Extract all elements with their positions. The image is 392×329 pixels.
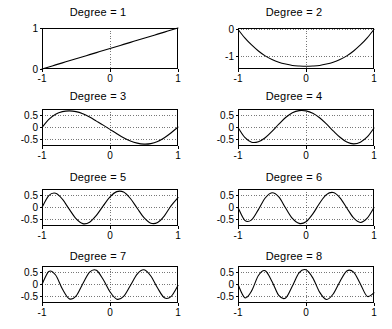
axes: -1010.50-0.5 (0, 88, 194, 168)
y-tick-label: 0 (32, 122, 38, 133)
plot-area: -1010.50-0.5 (196, 250, 390, 325)
y-tick-label: 0.5 (220, 110, 234, 121)
x-tick-label: -1 (234, 230, 243, 241)
figure-grid: Degree = 1 -10101 Degree = 2 -1010-1 Deg… (0, 0, 392, 329)
x-tick-label: 1 (175, 307, 181, 318)
x-tick-label: 1 (175, 150, 181, 161)
x-tick-label: -1 (38, 73, 47, 84)
plot-area: -1010.50-0.5 (0, 170, 194, 248)
axes: -1010.50-0.5 (196, 88, 390, 168)
x-tick-label: 0 (107, 230, 113, 241)
y-tick-label: 0 (228, 202, 234, 213)
x-tick-label: 1 (371, 150, 377, 161)
panel-degree-8: Degree = 8 -1010.50-0.5 (196, 250, 392, 329)
x-tick-label: 0 (303, 230, 309, 241)
y-tick-label: -1 (225, 51, 234, 62)
y-tick-label: -0.5 (217, 291, 235, 302)
plot-area: -1010.50-0.5 (196, 88, 390, 168)
x-tick-label: -1 (234, 307, 243, 318)
y-tick-label: 0 (228, 24, 234, 35)
plot-area: -1010.50-0.5 (0, 250, 194, 325)
axes: -1010-1 (196, 0, 390, 91)
x-tick-label: 1 (175, 230, 181, 241)
x-tick-label: -1 (38, 307, 47, 318)
x-tick-label: 1 (371, 73, 377, 84)
x-tick-label: 0 (303, 150, 309, 161)
plot-area: -1010-1 (196, 0, 390, 91)
axes: -1010.50-0.5 (0, 250, 194, 325)
x-tick-label: -1 (234, 73, 243, 84)
x-tick-label: 1 (371, 230, 377, 241)
x-tick-label: -1 (38, 150, 47, 161)
y-tick-label: 0.5 (24, 190, 38, 201)
x-tick-label: 1 (175, 73, 181, 84)
panel-degree-1: Degree = 1 -10101 (0, 0, 196, 88)
axes: -1010.50-0.5 (196, 170, 390, 248)
axes: -1010.50-0.5 (0, 170, 194, 248)
y-tick-label: 0 (32, 202, 38, 213)
x-tick-label: 1 (371, 307, 377, 318)
y-tick-label: 0.5 (24, 267, 38, 278)
y-tick-label: 0 (32, 279, 38, 290)
y-tick-label: 0.5 (220, 267, 234, 278)
y-tick-label: 0 (228, 122, 234, 133)
x-tick-label: -1 (38, 230, 47, 241)
y-tick-label: -0.5 (21, 214, 39, 225)
panel-degree-4: Degree = 4 -1010.50-0.5 (196, 88, 392, 170)
plot-area: -1010.50-0.5 (0, 88, 194, 168)
y-tick-label: 1 (32, 23, 38, 34)
x-tick-label: 0 (107, 150, 113, 161)
x-tick-label: 0 (303, 73, 309, 84)
y-tick-label: 0.5 (220, 190, 234, 201)
panel-degree-3: Degree = 3 -1010.50-0.5 (0, 88, 196, 170)
y-tick-label: 0 (228, 279, 234, 290)
x-tick-label: 0 (107, 307, 113, 318)
panel-degree-5: Degree = 5 -1010.50-0.5 (0, 170, 196, 250)
x-tick-label: 0 (303, 307, 309, 318)
x-tick-label: 0 (107, 73, 113, 84)
plot-area: -1010.50-0.5 (196, 170, 390, 248)
y-tick-label: -0.5 (217, 134, 235, 145)
y-tick-label: -0.5 (21, 134, 39, 145)
panel-degree-6: Degree = 6 -1010.50-0.5 (196, 170, 392, 250)
y-tick-label: -0.5 (21, 291, 39, 302)
axes: -10101 (0, 0, 194, 91)
x-tick-label: -1 (234, 150, 243, 161)
panel-degree-2: Degree = 2 -1010-1 (196, 0, 392, 88)
y-tick-label: 0 (32, 64, 38, 75)
plot-area: -10101 (0, 0, 194, 91)
panel-degree-7: Degree = 7 -1010.50-0.5 (0, 250, 196, 329)
axes: -1010.50-0.5 (196, 250, 390, 325)
y-tick-label: 0.5 (24, 110, 38, 121)
y-tick-label: -0.5 (217, 214, 235, 225)
